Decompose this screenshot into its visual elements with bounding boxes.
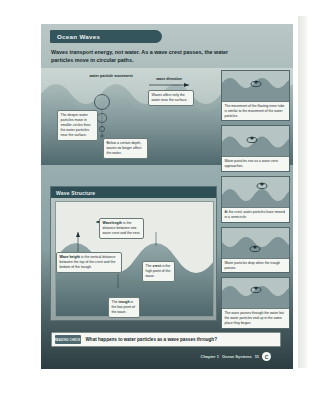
callout-depth-limit: Below a certain depth, waves no longer a… [103, 138, 148, 159]
inner-tube-wave-graphic-3 [222, 177, 289, 207]
page-edge-strip [298, 16, 307, 368]
sequence-caption-3: At the crest, water particles have moved… [222, 207, 289, 222]
callout-crest: The crest is the high point of the wave. [142, 261, 175, 282]
section-title: Ocean Waves [50, 33, 100, 40]
sequence-panel-1: The movement of the floating inner tube … [221, 70, 290, 121]
section-title-tab: Ocean Waves [50, 30, 162, 43]
textbook-page: Ocean Waves Waves transport energy, not … [0, 0, 313, 400]
wave-structure-header: Wave Structure [51, 187, 216, 198]
wave-structure-section: Wave Structure [50, 186, 217, 321]
label-water-particle-movement: water particle movement [88, 74, 134, 79]
inner-tube-wave-graphic-5 [222, 278, 289, 308]
label-wave-direction: wave direction [145, 77, 193, 82]
sequence-caption-1: The movement of the floating inner tube … [222, 101, 289, 120]
reading-check-question: What happens to water particles as a wav… [86, 337, 217, 342]
intro-paragraph: Waves transport energy, not water. As a … [51, 48, 241, 65]
term-trough: trough [119, 300, 130, 304]
trough-prefix: The [112, 300, 119, 304]
sequence-caption-5: The wave passes through the water but th… [222, 308, 289, 327]
callout-wavelength: Wavelength is the distance between one w… [99, 218, 144, 239]
sequence-panel-5: The wave passes through the water but th… [221, 277, 290, 328]
term-wave-height: Wave height [60, 255, 80, 259]
term-crest: crest [153, 264, 161, 268]
callout-wave-height: Wave height is the vertical distance bet… [56, 252, 122, 273]
inner-tube-wave-graphic-4 [222, 228, 289, 258]
sequence-panel-column: The movement of the floating inner tube … [221, 70, 288, 333]
sequence-image-2 [222, 126, 289, 156]
sequence-image-4 [222, 228, 289, 258]
page-footer: Chapter 1 Ocean Systems 11 C [201, 352, 271, 361]
wave-structure-title: Wave Structure [51, 190, 95, 196]
footer-page-number: 11 [255, 354, 259, 359]
callout-deeper-particles: The deeper water particles move in small… [57, 110, 98, 141]
sequence-panel-3: At the crest, water particles have moved… [221, 176, 290, 223]
reading-check-tag-label: READING CHECK [55, 338, 81, 342]
callout-trough: The trough is the low point of the wave. [108, 297, 140, 318]
footer-badge: C [262, 352, 271, 361]
reading-check-bar[interactable]: READING CHECK What happens to water part… [51, 332, 281, 347]
sequence-caption-2: Water particles rise as a wave crest app… [222, 156, 289, 171]
reading-check-tag: READING CHECK [55, 335, 81, 344]
ocean-waves-panel: Ocean Waves Waves transport energy, not … [41, 24, 293, 369]
sequence-image-3 [222, 177, 289, 207]
sequence-caption-4: Water particles drop when the trough pas… [222, 258, 289, 273]
inner-tube-wave-graphic-1 [222, 71, 289, 101]
inner-tube-wave-graphic-2 [222, 126, 289, 156]
sequence-image-1 [222, 71, 289, 101]
footer-chapter: Chapter 1 [201, 354, 219, 359]
sequence-image-5 [222, 278, 289, 308]
footer-section: Ocean Systems [222, 354, 252, 359]
sequence-panel-4: Water particles drop when the trough pas… [221, 227, 290, 274]
crest-prefix: The [146, 264, 153, 268]
term-wavelength: Wavelength [103, 221, 123, 225]
sequence-panel-2: Water particles rise as a wave crest app… [221, 125, 290, 172]
callout-surface-effect: Waves affect only the water near the sur… [148, 90, 194, 106]
